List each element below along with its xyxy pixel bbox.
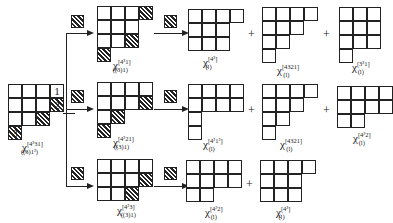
- branch-connector: [63, 113, 75, 114]
- cell-label-2: 2: [50, 98, 64, 112]
- caption-sup: [4321]: [285, 137, 302, 144]
- plus-sign: +: [246, 177, 253, 192]
- branch-arrow-2: [66, 109, 88, 110]
- caption-sub: (l): [278, 213, 284, 220]
- result-caption: χ[4²2](l): [205, 205, 217, 220]
- caption-sub: ((3)1): [121, 211, 136, 218]
- plus-sign: +: [248, 27, 255, 42]
- caption-sub: (l): [211, 213, 217, 220]
- arrowhead-icon: [87, 183, 94, 189]
- cell: [22, 112, 36, 126]
- caption-sup: [4³]: [281, 205, 291, 212]
- result-caption: χ[4³](l): [203, 55, 212, 70]
- caption-sup: [4³]: [208, 55, 218, 62]
- caption-sub: (l): [283, 71, 289, 78]
- result-caption: χ[3³1](l): [352, 60, 364, 75]
- arrow-line: [154, 33, 184, 34]
- cell: [8, 98, 22, 112]
- cell-hatched: [36, 112, 50, 126]
- caption-sub: (l): [209, 145, 215, 152]
- cell: [22, 98, 36, 112]
- arrowhead-icon: [87, 106, 94, 112]
- result-caption: χ[4321](l): [277, 63, 289, 78]
- cell: [22, 84, 36, 98]
- plus-sign: +: [323, 27, 330, 42]
- intermediate-caption-3: χ[4²3]((3)1): [117, 203, 136, 218]
- result-caption: χ[4321](l): [280, 137, 292, 152]
- hatched-box-icon: [164, 15, 177, 28]
- caption-sup: [4²21]: [118, 135, 134, 142]
- hatched-box-icon: [164, 90, 177, 103]
- caption-sub: (l): [359, 139, 365, 146]
- caption-sub: (l): [205, 63, 211, 70]
- caption-sup: [4³1]: [118, 58, 131, 65]
- plus-sign: +: [248, 103, 255, 118]
- cell: [8, 112, 22, 126]
- caption-sub: (l): [286, 145, 292, 152]
- caption-sub: ((3)1²): [21, 148, 38, 155]
- hatched-box-icon: [71, 167, 84, 180]
- caption-sub: (l): [358, 68, 364, 75]
- source-caption: χ[4³31]((3)1²): [22, 140, 38, 155]
- hatched-box-icon: [71, 15, 84, 28]
- cell: [36, 98, 50, 112]
- caption-sup: [4²2]: [210, 205, 223, 212]
- caption-sup: [4²2]: [358, 131, 371, 138]
- caption-sup: [4²3]: [122, 203, 135, 210]
- result-caption: χ[4³](l): [276, 205, 285, 220]
- cell: [36, 84, 50, 98]
- cell-label-1: 1: [50, 84, 64, 98]
- caption-sub: ((3)1): [114, 143, 129, 150]
- caption-sup: [3³1]: [357, 60, 370, 67]
- result-caption: χ[4²2](l): [353, 131, 365, 146]
- plus-sign: +: [323, 103, 330, 118]
- intermediate-caption-2: χ[4²21]((3)1): [113, 135, 129, 150]
- cell: [8, 84, 22, 98]
- caption-sup: [4³31]: [27, 140, 43, 147]
- cell-label-3: 3: [8, 126, 22, 140]
- result-caption: χ[4²1²](l): [203, 137, 215, 152]
- hatched-box-icon: [164, 167, 177, 180]
- caption-sup: [4²1²]: [208, 137, 223, 144]
- caption-sub: ((3)1): [113, 66, 128, 73]
- branch-arrow-3: [66, 186, 88, 187]
- arrow-line: [154, 186, 184, 187]
- hatched-box-icon: [71, 90, 84, 103]
- arrowhead-icon: [87, 30, 94, 36]
- intermediate-caption-1: χ[4³1]((3)1): [113, 58, 128, 73]
- arrow-line: [154, 109, 184, 110]
- caption-sup: [4321]: [282, 63, 299, 70]
- branch-arrow-1: [66, 33, 88, 34]
